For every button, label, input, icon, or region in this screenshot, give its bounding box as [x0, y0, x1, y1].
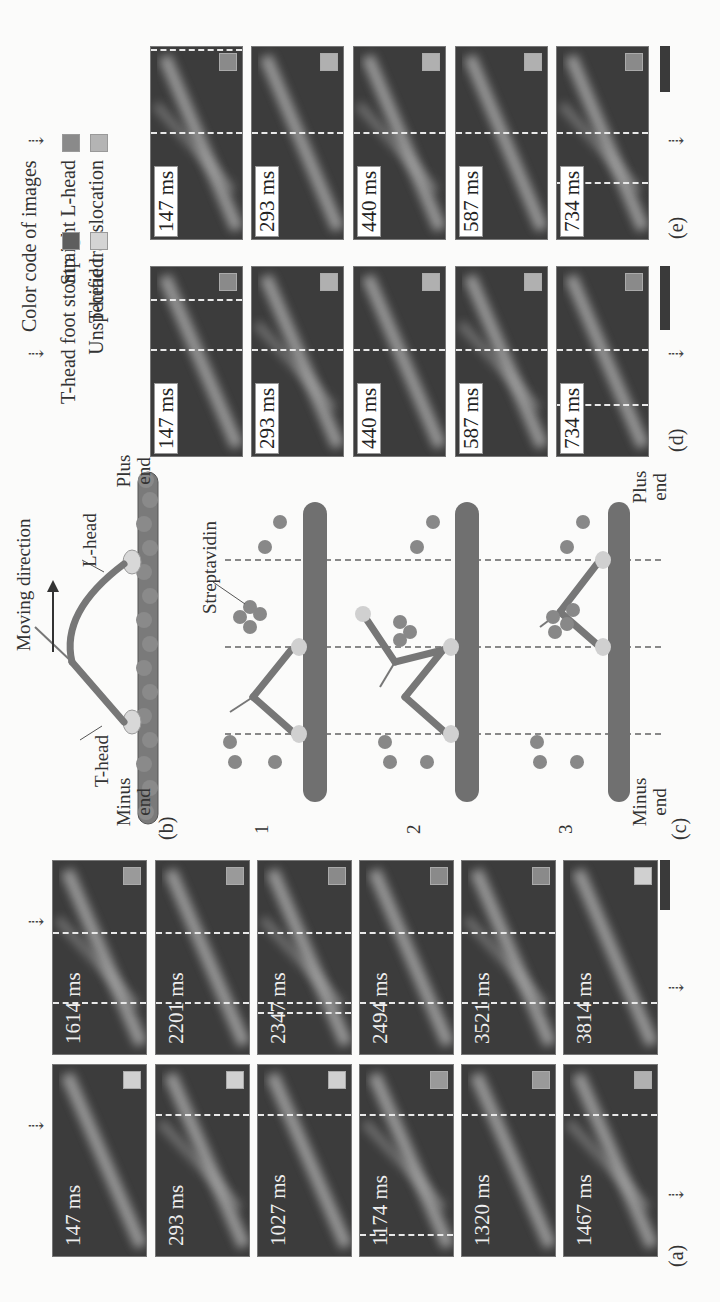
position-guide-line — [258, 932, 351, 934]
color-code-swatch — [430, 1071, 448, 1089]
position-guide-line — [156, 1114, 249, 1116]
position-guide-line — [258, 1114, 351, 1116]
color-code-swatch — [219, 273, 237, 291]
microscopy-frame: 440 ms — [353, 46, 446, 240]
frame-timestamp: 2494 ms — [368, 972, 393, 1044]
position-guide-line — [53, 932, 146, 934]
legend-swatch-t-head-translocation — [90, 134, 108, 152]
streptavidin-label: Streptavidin — [200, 521, 220, 614]
legend-swatch-t-head-foot-stomp — [62, 232, 80, 250]
microscopy-frame: 293 ms — [251, 46, 344, 240]
microscopy-frame: 734 ms — [556, 46, 649, 240]
figure-canvas: 147 ms 293 ms 1027 ms 1174 ms 1320 ms 14… — [0, 0, 720, 1302]
end-label: end — [650, 772, 670, 832]
position-guide-line — [462, 1114, 555, 1116]
frame-timestamp: 440 ms — [357, 383, 381, 454]
position-guide-line — [360, 932, 453, 934]
microscopy-frame: 587 ms — [455, 46, 548, 240]
step-2-label: 2 — [404, 825, 424, 835]
panel-label-d: (d) — [665, 429, 688, 452]
frame-timestamp: 147 ms — [61, 1185, 86, 1246]
minus-end-label-c: Minus end — [630, 772, 670, 832]
color-code-swatch — [422, 53, 440, 71]
position-guide-line — [557, 349, 648, 351]
step-1-label: 1 — [252, 825, 272, 835]
frame-timestamp: 293 ms — [164, 1185, 189, 1246]
color-code-swatch — [123, 1071, 141, 1089]
color-code-swatch — [328, 1071, 346, 1089]
position-guide-line — [557, 132, 648, 134]
minus-label: Minus — [114, 772, 134, 832]
microscopy-frame: 147 ms — [150, 266, 243, 457]
position-guide-line — [252, 132, 343, 134]
position-marker-icon: ⇣ — [24, 345, 48, 362]
microscopy-frame: 2494 ms — [359, 860, 454, 1055]
position-guide-line — [462, 932, 555, 934]
color-code-swatch — [430, 867, 448, 885]
frame-timestamp: 147 ms — [154, 166, 178, 237]
legend-swatch-straight-l-head — [62, 134, 80, 152]
position-marker-icon: ⇣ — [664, 979, 688, 996]
frame-timestamp: 1320 ms — [470, 1174, 495, 1246]
color-code-swatch — [320, 53, 338, 71]
frame-timestamp: 2347 ms — [266, 972, 291, 1044]
frame-timestamp: 147 ms — [154, 383, 178, 454]
scale-bar — [660, 860, 670, 910]
color-code-swatch — [625, 273, 643, 291]
minus-end-label-b: Minus end — [114, 772, 154, 832]
legend-label-unspecified: Unspecified — [85, 258, 108, 355]
microscopy-frame: 440 ms — [353, 266, 446, 457]
frame-timestamp: 587 ms — [459, 383, 483, 454]
position-marker-icon: ⇣ — [664, 345, 688, 362]
frame-timestamp: 3814 ms — [572, 972, 597, 1044]
position-marker-icon: ⇣ — [24, 913, 48, 930]
frame-timestamp: 587 ms — [459, 166, 483, 237]
microscopy-frame: 2347 ms — [257, 860, 352, 1055]
plus-label: Plus — [114, 446, 134, 496]
position-guide-line — [252, 349, 343, 351]
position-guide-line — [456, 349, 547, 351]
position-guide-line — [151, 49, 242, 51]
position-marker-icon: ⇣ — [24, 1117, 48, 1134]
microscopy-frame: 587 ms — [455, 266, 548, 457]
panel-label-e: (e) — [665, 217, 688, 239]
moving-direction-label: Moving direction — [14, 519, 34, 651]
position-guide-line — [564, 1114, 657, 1116]
plus-end-label-c: Plus end — [630, 462, 670, 512]
legend-title: Color code of images — [18, 160, 41, 332]
color-code-swatch — [320, 273, 338, 291]
microscopy-frame: 3521 ms — [461, 860, 556, 1055]
l-head-label: L-head — [80, 513, 100, 567]
position-guide-line — [151, 349, 242, 351]
color-code-swatch — [219, 53, 237, 71]
plus-end-label-b: Plus end — [114, 446, 154, 496]
microscopy-frame: 147 ms — [150, 46, 243, 240]
position-guide-line — [354, 132, 445, 134]
step-3-label: 3 — [556, 825, 576, 835]
frame-timestamp: 734 ms — [560, 166, 584, 237]
microscopy-frame: 147 ms — [52, 1064, 147, 1257]
scale-bar — [660, 46, 670, 92]
color-code-swatch — [422, 273, 440, 291]
position-guide-line — [456, 132, 547, 134]
color-code-swatch — [123, 867, 141, 885]
microscopy-frame: 1027 ms — [257, 1064, 352, 1257]
color-code-swatch — [226, 1071, 244, 1089]
microscopy-frame: 1614 ms — [52, 860, 147, 1055]
microscopy-frame: 3814 ms — [563, 860, 658, 1055]
position-guide-line — [156, 932, 249, 934]
end-label: end — [650, 462, 670, 512]
t-head-label: T-head — [92, 735, 112, 787]
end-label: end — [134, 772, 154, 832]
color-code-swatch — [524, 53, 542, 71]
panel-label-a: (a) — [665, 1245, 688, 1267]
frame-timestamp: 1174 ms — [368, 1175, 393, 1246]
color-code-swatch — [328, 867, 346, 885]
panel-label-c: (c) — [668, 818, 691, 840]
microscopy-frame: 734 ms — [556, 266, 649, 457]
myosin-diagram-c — [205, 462, 675, 822]
microscopy-frame: 1174 ms — [359, 1064, 454, 1257]
frame-timestamp: 440 ms — [357, 166, 381, 237]
minus-label: Minus — [630, 772, 650, 832]
panel-label-b: (b) — [155, 817, 178, 840]
